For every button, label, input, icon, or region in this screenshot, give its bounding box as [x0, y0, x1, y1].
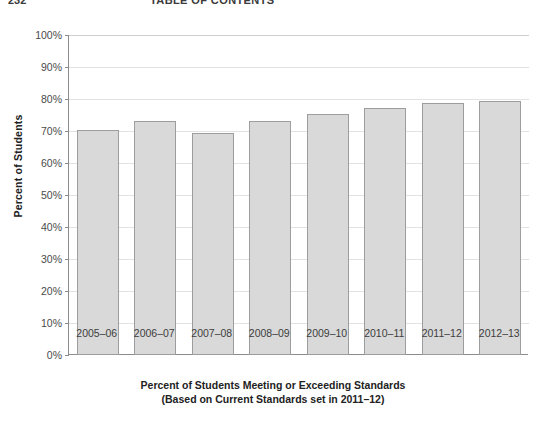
y-axis-tick-label: 90%	[41, 61, 62, 73]
bar	[192, 133, 234, 355]
y-axis-tick-label: 100%	[35, 29, 62, 41]
bar	[77, 130, 119, 355]
bar	[364, 108, 406, 355]
y-axis-tick-mark	[65, 355, 69, 356]
x-axis-tick-label: 2012–13	[463, 327, 535, 339]
bar	[134, 121, 176, 355]
y-axis-tick-label: 50%	[41, 189, 62, 201]
bars-group	[69, 35, 529, 355]
bar	[307, 114, 349, 355]
figure-caption: Percent of Students Meeting or Exceeding…	[0, 378, 546, 406]
y-axis-tick-label: 60%	[41, 157, 62, 169]
y-axis-tick-label: 40%	[41, 221, 62, 233]
y-axis-title: Percent of Students	[12, 66, 24, 266]
plot-area: 0%10%20%30%40%50%60%70%80%90%100%	[68, 35, 528, 355]
caption-line-2: (Based on Current Standards set in 2011–…	[0, 392, 546, 406]
y-axis-tick-label: 10%	[41, 317, 62, 329]
y-axis-tick-label: 80%	[41, 93, 62, 105]
bar	[422, 103, 464, 355]
bar	[479, 101, 521, 355]
y-axis-tick-label: 70%	[41, 125, 62, 137]
caption-line-1: Percent of Students Meeting or Exceeding…	[0, 378, 546, 392]
y-axis-tick-label: 30%	[41, 253, 62, 265]
y-axis-tick-label: 0%	[47, 349, 62, 361]
bar	[249, 121, 291, 355]
bar-chart-figure: Percent of Students 0%10%20%30%40%50%60%…	[0, 0, 546, 421]
y-axis-tick-label: 20%	[41, 285, 62, 297]
